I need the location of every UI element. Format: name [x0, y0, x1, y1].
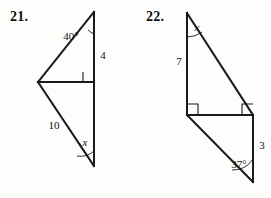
- fig21-bottom-angle-label: x: [82, 136, 88, 148]
- fig21-top-angle-label: 40°: [63, 30, 78, 42]
- problem-22-figure: x 7 3 37°: [135, 0, 271, 198]
- fig21-lower-hypotenuse: [38, 82, 94, 166]
- worksheet-page: 21. 40° 4 10 x 22.: [0, 0, 271, 198]
- fig22-top-angle-label: x: [194, 21, 200, 33]
- problem-21: 21. 40° 4 10 x: [0, 0, 135, 198]
- fig22-upper-right-angle-mark: [187, 104, 198, 115]
- fig22-lower-hypotenuse: [187, 115, 253, 182]
- fig22-left-side-label: 7: [176, 55, 182, 67]
- fig22-right-side-label: 3: [259, 139, 265, 151]
- problem-22: 22. x 7 3 37°: [135, 0, 271, 198]
- fig21-right-angle-mark: [83, 72, 94, 82]
- fig21-upper-side-label: 4: [100, 49, 106, 61]
- fig21-upper-hypotenuse: [38, 12, 94, 82]
- fig22-bottom-angle-label: 37°: [231, 158, 246, 170]
- fig21-lower-hypotenuse-label: 10: [49, 119, 61, 131]
- problem-21-figure: 40° 4 10 x: [0, 0, 135, 198]
